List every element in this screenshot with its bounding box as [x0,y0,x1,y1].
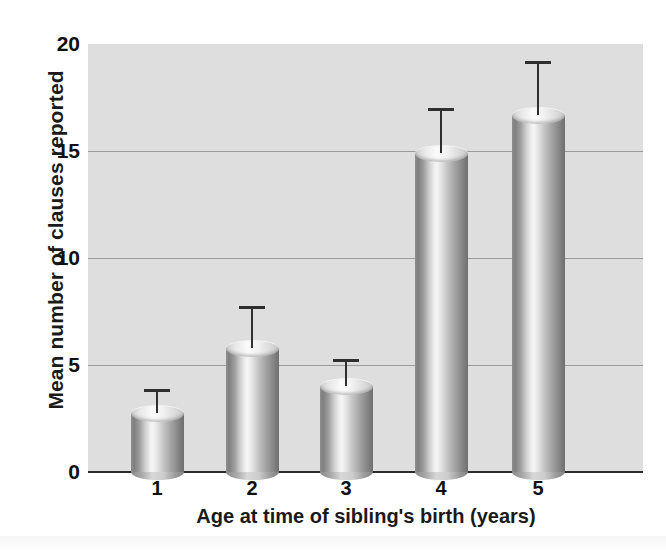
bar-body [415,153,468,472]
bar-4 [415,145,468,480]
bar-3 [320,378,373,480]
error-bar-cap-4 [428,108,454,111]
x-tick-label-3: 3 [316,477,376,500]
y-tick-label-0: 0 [18,460,80,484]
x-tick-label-5: 5 [508,477,568,500]
error-bar-stem-5 [537,61,539,115]
bar-5 [512,107,565,480]
error-bar-cap-1 [144,389,170,392]
bar-body [512,115,565,472]
error-bar-cap-2 [239,306,265,309]
y-tick-label-20: 20 [18,32,80,56]
bar-2 [226,340,279,480]
y-tick-label-10: 10 [18,246,80,270]
x-tick-label-2: 2 [222,477,282,500]
y-tick-label-5: 5 [18,353,80,377]
error-bar-cap-3 [333,359,359,362]
x-tick-label-1: 1 [127,477,187,500]
error-bar-stem-3 [345,359,347,387]
error-bar-cap-5 [525,61,551,64]
bar-body [320,386,373,472]
bar-body [226,348,279,472]
bar-1 [131,405,184,480]
scan-artifact [0,536,666,550]
error-bar-stem-1 [156,389,158,414]
error-bar-stem-2 [251,306,253,348]
x-tick-label-4: 4 [411,477,471,500]
error-bar-stem-4 [440,108,442,153]
y-tick-label-15: 15 [18,139,80,163]
figure-chart: Mean number of clauses reported 20 15 10… [0,0,666,554]
x-axis-title: Age at time of sibling's birth (years) [88,505,644,528]
